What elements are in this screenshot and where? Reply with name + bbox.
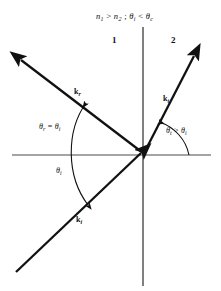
- incident-wavevector-subscript: i: [80, 219, 82, 225]
- reflected-wavevector-label: kr: [74, 88, 81, 97]
- refraction-diagram: n1 > n2 ; θi < θc 1 2 kr kt ki θr = θi θ…: [0, 0, 221, 291]
- condition-n1-sub: 1: [101, 16, 104, 22]
- condition-gt: >: [106, 11, 111, 21]
- transmitted-ray: [143, 56, 194, 155]
- reflection-angle-arc: [71, 103, 88, 205]
- transmitted-wavevector-subscript: t: [167, 98, 169, 104]
- reflection-angle-operator: =: [47, 122, 52, 131]
- incident-wavevector-label: ki: [76, 216, 82, 225]
- reflected-ray: [21, 60, 143, 153]
- transmission-angle-operator: >: [174, 126, 179, 135]
- incident-ray: [16, 153, 141, 272]
- transmission-angle-relation: θt > θi: [166, 127, 187, 136]
- condition-expression: n1 > n2 ; θi < θc: [96, 12, 153, 22]
- transmitted-wavevector-label: kt: [163, 95, 169, 104]
- transmission-angle-rhs-sub: i: [185, 130, 187, 136]
- reflection-angle-rhs-sub: i: [59, 126, 61, 132]
- diagram-canvas: [0, 0, 221, 291]
- condition-theta-c-sub: c: [150, 16, 153, 22]
- reflection-angle-lhs-sub: r: [43, 126, 45, 132]
- incidence-angle-subscript: i: [60, 170, 62, 176]
- region-label-1: 1: [112, 36, 117, 45]
- condition-lt: <: [138, 11, 143, 21]
- transmission-angle-lhs-sub: t: [170, 130, 172, 136]
- condition-n2-sub: 2: [118, 16, 121, 22]
- reflection-angle-relation: θr = θi: [39, 123, 60, 132]
- region-label-2: 2: [171, 36, 176, 45]
- condition-separator: ;: [124, 11, 127, 21]
- incidence-angle-label: θi: [56, 167, 62, 176]
- reflected-wavevector-subscript: r: [78, 91, 80, 97]
- condition-theta-i-sub: i: [134, 16, 136, 22]
